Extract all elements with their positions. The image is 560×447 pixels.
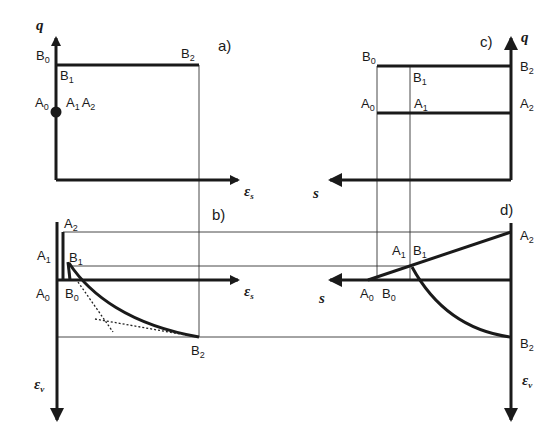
label-A0-c: A0 (361, 96, 375, 113)
label-B2-b: B2 (191, 343, 205, 360)
panel-b: b) εs εv A2 A1 B1 A0 B0 B2 (34, 206, 254, 420)
label-B2-d: B2 (520, 336, 534, 353)
panel-label-a: a) (218, 37, 231, 54)
label-B1-a: B1 (60, 68, 74, 85)
curve-B1-B2-d (412, 267, 510, 337)
label-B0-c: B0 (362, 49, 376, 66)
label-A2-b: A2 (64, 216, 78, 233)
panel-c: c) q s B0 B1 B2 A0 A1 A2 (312, 29, 534, 201)
stress-strain-diagram: q a) εs B0 B2 B1 A0 A1A2 c) q s B0 B1 B2… (0, 0, 560, 447)
axis-label-q-c: q (521, 29, 529, 45)
label-B0-d: B0 (382, 286, 396, 303)
axis-label-s-c: s (312, 185, 319, 201)
point-A-dot (51, 107, 62, 118)
label-A2-c: A2 (520, 96, 534, 113)
label-A0-a: A0 (35, 95, 49, 112)
label-B2-c: B2 (520, 59, 534, 76)
tangent-line-1-b (78, 282, 113, 332)
panel-a: q a) εs B0 B2 B1 A0 A1A2 (35, 17, 254, 201)
label-A1-A2-a: A1A2 (66, 95, 95, 112)
panel-label-d: d) (500, 201, 513, 218)
label-B2-a: B2 (181, 46, 195, 63)
axis-label-eps-v-d: εv (522, 372, 533, 390)
panel-label-b: b) (212, 206, 225, 223)
label-B1-b: B1 (69, 250, 83, 267)
label-B0-b: B0 (65, 286, 79, 303)
curve-B1-B2-b (69, 263, 199, 337)
axis-label-eps-s-a: εs (244, 183, 254, 201)
path-A0-A2-d (368, 232, 511, 280)
axis-label-eps-s-b: εs (244, 283, 254, 301)
axis-label-s-d: s (318, 290, 325, 306)
label-B1-d: B1 (413, 243, 427, 260)
label-A2-d: A2 (520, 228, 534, 245)
label-A1-c: A1 (414, 96, 428, 113)
label-A0-d: A0 (360, 286, 374, 303)
label-B0-a: B0 (36, 48, 50, 65)
projection-lines (57, 65, 511, 337)
panel-d: d) s εv A2 A1 B1 A0 B0 B2 (318, 201, 534, 420)
axis-label-q-a: q (36, 17, 44, 33)
label-A1-b: A1 (37, 248, 51, 265)
label-A1-d: A1 (392, 243, 406, 260)
axis-label-eps-v-b: εv (34, 376, 45, 394)
label-A0-b: A0 (36, 286, 50, 303)
label-B1-c: B1 (413, 70, 427, 87)
panel-label-c: c) (480, 33, 493, 50)
